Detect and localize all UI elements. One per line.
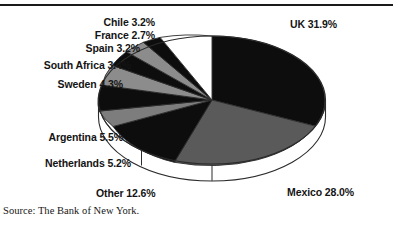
slice-label-netherlands: Netherlands 5.2% bbox=[0, 157, 131, 169]
slice-label-argentina: Argentina 5.5% bbox=[0, 131, 123, 143]
slice-label-chile: Chile 3.2% bbox=[0, 16, 155, 28]
source-attribution: Source: The Bank of New York. bbox=[3, 205, 139, 216]
slice-label-sweden: Sweden 4.3% bbox=[0, 78, 123, 90]
slice-label-south-africa: South Africa 3.4% bbox=[0, 59, 131, 71]
slice-label-uk: UK 31.9% bbox=[290, 18, 337, 30]
pie-top-face bbox=[98, 35, 326, 166]
top-divider-rule bbox=[0, 4, 393, 6]
slice-label-other: Other 12.6% bbox=[96, 187, 156, 199]
chart-plot-area: Chile 3.2% France 2.7% Spain 3.2% South … bbox=[0, 8, 393, 202]
slice-label-france: France 2.7% bbox=[0, 29, 155, 41]
slice-label-mexico: Mexico 28.0% bbox=[287, 186, 354, 198]
slice-label-spain: Spain 3.2% bbox=[0, 42, 140, 54]
pie-chart-figure: Chile 3.2% France 2.7% Spain 3.2% South … bbox=[0, 0, 393, 226]
